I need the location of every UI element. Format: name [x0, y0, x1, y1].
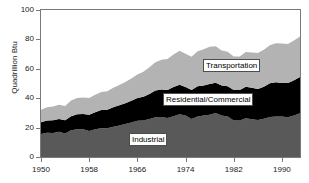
x-tick-mark	[234, 158, 235, 162]
x-tick-label: 1974	[172, 164, 200, 175]
x-tick-mark	[137, 158, 138, 162]
stacked-area-chart: Quadrillion Btu 020406080100 19501958196…	[0, 0, 309, 183]
y-axis-tick: 40	[0, 98, 40, 99]
series-label-industrial: Industrial	[129, 133, 167, 146]
stacked-area-series-group	[41, 10, 300, 157]
y-tick-label: 40	[25, 92, 34, 103]
x-tick-label: 1950	[27, 164, 55, 175]
y-axis-tick: 80	[0, 39, 40, 40]
y-tick-label: 20	[25, 122, 34, 133]
y-axis-tick: 60	[0, 69, 40, 70]
x-tick-label: 1990	[268, 164, 296, 175]
y-tick-label: 60	[25, 63, 34, 74]
y-tick-label: 100	[21, 4, 34, 15]
x-tick-mark	[282, 158, 283, 162]
plot-area	[40, 9, 301, 158]
y-axis: Quadrillion Btu 020406080100	[0, 0, 40, 167]
series-label-residential-commercial: Residential/Commercial	[163, 93, 253, 106]
y-axis-tick: 20	[0, 128, 40, 129]
x-tick-mark	[41, 158, 42, 162]
x-tick-label: 1982	[220, 164, 248, 175]
series-label-transportation: Transportation	[203, 59, 260, 72]
x-axis: 195019581966197419821990	[0, 158, 309, 183]
x-tick-label: 1958	[75, 164, 103, 175]
x-tick-mark	[89, 158, 90, 162]
x-tick-mark	[186, 158, 187, 162]
x-tick-label: 1966	[123, 164, 151, 175]
y-axis-tick: 100	[0, 10, 40, 11]
y-tick-label: 80	[25, 33, 34, 44]
